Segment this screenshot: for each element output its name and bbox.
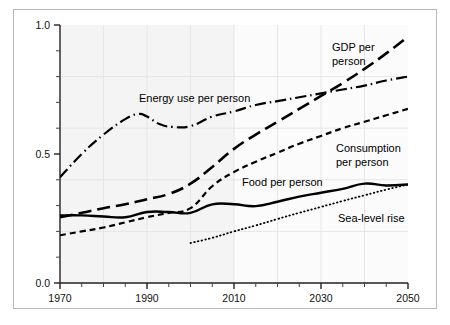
x-tick-label-4: 2030	[309, 292, 333, 304]
y-tick-label-1: 1.0	[35, 19, 50, 31]
y-tick-label-3: 0.0	[35, 277, 50, 289]
line-chart: 1.0 0.5 0.0 1970 1990 2010 2030 2050 GDP…	[0, 0, 450, 325]
chart-figure: 1.0 0.5 0.0 1970 1990 2010 2030 2050 GDP…	[0, 0, 450, 325]
series-label-food: Food per person	[242, 176, 323, 188]
series-label-sealevel: Sea-level rise	[338, 212, 405, 224]
series-label-energy: Energy use per person	[139, 92, 250, 104]
x-tick-label-2: 1990	[135, 292, 159, 304]
y-tick-label-2: 0.5	[35, 148, 50, 160]
x-tick-label-5: 2050	[396, 292, 420, 304]
x-tick-label-1: 1970	[48, 292, 72, 304]
x-axis-major-ticks	[60, 283, 408, 289]
series-label-gdp-line1: GDP per	[332, 41, 375, 53]
y-axis-major-ticks	[54, 25, 60, 283]
series-label-gdp-line2: person	[332, 55, 366, 67]
series-label-consumption-line2: per person	[336, 156, 389, 168]
x-tick-label-3: 2010	[222, 292, 246, 304]
series-label-consumption-line1: Consumption	[336, 142, 401, 154]
